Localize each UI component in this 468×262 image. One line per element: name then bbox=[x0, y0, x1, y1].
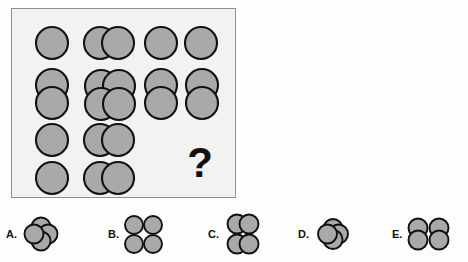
answer-option-a[interactable]: A. bbox=[6, 205, 61, 262]
option-a-figure bbox=[21, 214, 61, 254]
rosette-four-circle-figure bbox=[78, 65, 142, 125]
two-horizontal-pairs-figure bbox=[80, 122, 140, 198]
missing-cell-question-mark[interactable]: ? bbox=[175, 135, 225, 191]
answer-option-d[interactable]: D. bbox=[298, 205, 353, 262]
vertical-overlap-pair-figure bbox=[29, 65, 75, 125]
matrix-cell-r2c1 bbox=[29, 65, 75, 125]
two-vertical-pairs-option-figure bbox=[406, 213, 452, 255]
answer-option-c[interactable]: C. bbox=[208, 205, 263, 262]
option-d-figure bbox=[313, 214, 353, 254]
option-e-figure bbox=[406, 213, 452, 255]
rosette-tight-figure bbox=[313, 214, 353, 254]
two-horizontal-pairs-option-figure bbox=[223, 213, 263, 255]
matrix-cell-r2c2 bbox=[78, 65, 142, 125]
option-b-label: B. bbox=[108, 228, 119, 240]
answer-option-b[interactable]: B. bbox=[108, 205, 163, 262]
horizontal-separate-pair-figure bbox=[143, 20, 221, 66]
option-e-label: E. bbox=[392, 228, 402, 240]
horizontal-overlap-pair-figure bbox=[80, 20, 140, 66]
matrix-cell-r1c2 bbox=[80, 20, 140, 66]
option-d-label: D. bbox=[298, 228, 309, 240]
matrix-cell-r1c3 bbox=[143, 20, 221, 66]
option-a-label: A. bbox=[6, 228, 17, 240]
option-c-figure bbox=[223, 213, 263, 255]
matrix-panel: ? bbox=[11, 8, 236, 198]
answer-option-e[interactable]: E. bbox=[392, 205, 452, 262]
option-c-label: C. bbox=[208, 228, 219, 240]
option-b-figure bbox=[123, 214, 163, 254]
answer-options-row: A. B. C. bbox=[0, 205, 468, 262]
matrix-cell-r3c1 bbox=[29, 122, 75, 198]
matrix-cell-r1c1 bbox=[29, 20, 75, 66]
matrix-cell-r2c3 bbox=[142, 65, 224, 125]
grid-2x2-separate-figure bbox=[123, 214, 163, 254]
matrix-cell-r3c2 bbox=[80, 122, 140, 198]
rosette-wide-figure bbox=[21, 214, 61, 254]
two-vertical-pairs-figure bbox=[142, 65, 224, 125]
single-circle-figure bbox=[29, 20, 75, 66]
vertical-separate-pair-figure bbox=[29, 122, 75, 198]
